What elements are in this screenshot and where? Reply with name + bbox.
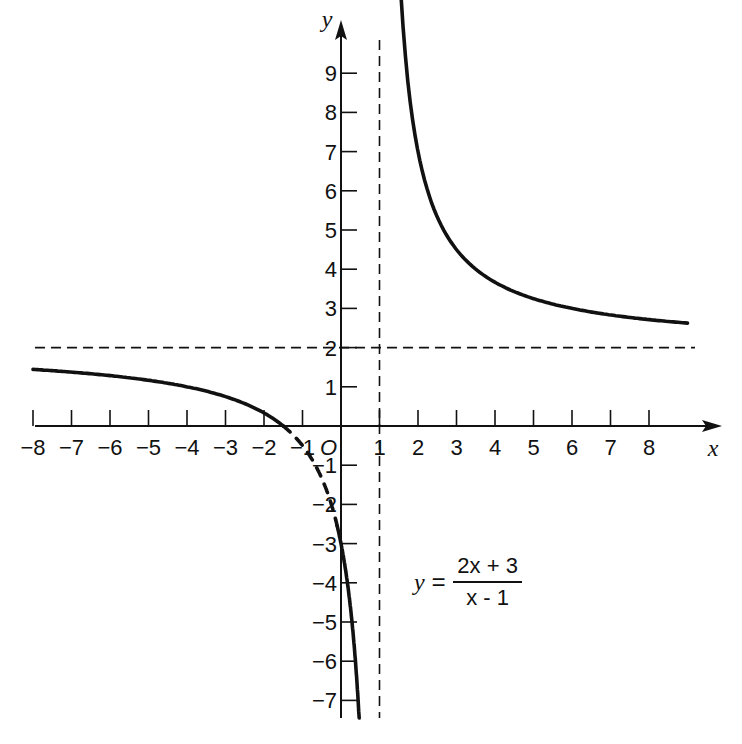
x-tick-label: 3 [450, 435, 462, 460]
y-axis-label: y [320, 6, 333, 32]
y-tick-label: 2 [325, 336, 337, 361]
y-tick-label: 6 [325, 179, 337, 204]
y-tick-label: 1 [325, 375, 337, 400]
axes [35, 20, 722, 718]
x-tick-label: −8 [20, 435, 45, 460]
x-tick-label: −7 [59, 435, 84, 460]
curve-0 [33, 369, 283, 426]
tick-labels: −8−7−6−5−4−3−2−112345678−7−6−5−4−3−2−112… [20, 6, 718, 713]
equation-numerator: 2x + 3 [453, 553, 522, 583]
function-graph: −8−7−6−5−4−3−2−112345678−7−6−5−4−3−2−112… [0, 0, 742, 744]
y-tick-label: 9 [325, 61, 337, 86]
curve-3 [401, 0, 688, 323]
y-tick-label: 3 [325, 296, 337, 321]
x-tick-label: −2 [251, 435, 276, 460]
y-tick-label: 5 [325, 218, 337, 243]
y-tick-label: −4 [312, 571, 337, 596]
y-tick-label: −3 [312, 532, 337, 557]
x-tick-label: 5 [527, 435, 539, 460]
x-tick-label: −5 [136, 435, 161, 460]
x-tick-label: 8 [643, 435, 655, 460]
equation-denominator: x - 1 [466, 583, 509, 611]
y-tick-label: 8 [325, 100, 337, 125]
x-tick-label: −6 [97, 435, 122, 460]
curves [33, 0, 688, 718]
y-tick-label: −7 [312, 688, 337, 713]
y-tick-label: 7 [325, 140, 337, 165]
equation-fraction: 2x + 3 x - 1 [453, 553, 522, 611]
x-tick-label: 6 [566, 435, 578, 460]
x-tick-label: −3 [213, 435, 238, 460]
x-tick-label: −4 [174, 435, 199, 460]
y-tick-label: −5 [312, 610, 337, 635]
x-tick-label: 1 [373, 435, 385, 460]
x-tick-label: 2 [412, 435, 424, 460]
x-tick-label: 4 [489, 435, 501, 460]
equation-lhs: y = [414, 568, 445, 596]
origin-label: O [320, 435, 337, 460]
y-tick-label: −6 [312, 649, 337, 674]
x-tick-label: 7 [604, 435, 616, 460]
equation-annotation: y = 2x + 3 x - 1 [414, 553, 522, 611]
x-axis-label: x [707, 435, 719, 461]
y-tick-label: 4 [325, 257, 337, 282]
